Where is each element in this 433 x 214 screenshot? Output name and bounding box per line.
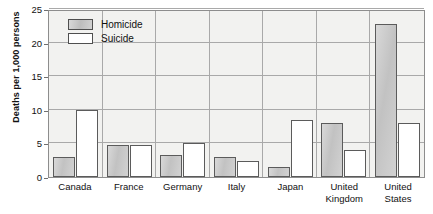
bar-homicide-canada — [53, 157, 75, 177]
y-tick-label-25: 25 — [2, 4, 42, 15]
y-tick-mark-5 — [44, 144, 48, 145]
bar-group-united-kingdom — [317, 11, 371, 177]
bar-pair — [210, 11, 264, 177]
bar-homicide-germany — [160, 155, 182, 177]
legend: Homicide Suicide — [68, 19, 143, 47]
bar-suicide-united-states — [398, 123, 420, 177]
y-tick-label-10: 10 — [2, 105, 42, 116]
y-tick-label-0: 0 — [2, 172, 42, 183]
bar-group-japan — [263, 11, 317, 177]
y-tick-mark-15 — [44, 77, 48, 78]
bar-suicide-germany — [183, 143, 205, 177]
y-tick-mark-10 — [44, 111, 48, 112]
bar-suicide-japan — [291, 120, 313, 177]
bar-group-italy — [210, 11, 264, 177]
bar-pair — [317, 11, 371, 177]
y-tick-label-20: 20 — [2, 38, 42, 49]
y-tick-mark-0 — [44, 178, 48, 179]
legend-label-suicide: Suicide — [101, 33, 134, 44]
bar-homicide-united-kingdom — [321, 123, 343, 177]
x-axis-label-italy: Italy — [210, 181, 264, 213]
bar-pair — [156, 11, 210, 177]
x-axis-label-united-states: UnitedStates — [371, 181, 425, 213]
bar-suicide-united-kingdom — [344, 150, 366, 177]
bar-chart: Deaths per 1,000 persons Homicide Suicid… — [0, 0, 433, 214]
bar-homicide-japan — [268, 167, 290, 177]
bar-homicide-italy — [214, 157, 236, 177]
bar-suicide-france — [130, 145, 152, 177]
x-axis-label-germany: Germany — [156, 181, 210, 213]
bar-homicide-united-states — [375, 24, 397, 177]
y-tick-label-15: 15 — [2, 71, 42, 82]
bar-pair — [263, 11, 317, 177]
gridline-25 — [49, 8, 424, 9]
legend-swatch-suicide — [68, 33, 93, 44]
y-tick-mark-25 — [44, 10, 48, 11]
x-axis-labels: CanadaFranceGermanyItalyJapanUnitedKingd… — [48, 181, 425, 213]
x-axis-label-france: France — [102, 181, 156, 213]
bar-suicide-canada — [76, 110, 98, 177]
bar-group-united-states — [370, 11, 424, 177]
bar-group-germany — [156, 11, 210, 177]
legend-item-suicide: Suicide — [68, 33, 143, 44]
bar-homicide-france — [107, 145, 129, 177]
y-axis-title: Deaths per 1,000 persons — [11, 0, 21, 137]
legend-swatch-homicide — [68, 19, 93, 30]
legend-label-homicide: Homicide — [101, 19, 143, 30]
legend-item-homicide: Homicide — [68, 19, 143, 30]
plot-area: Homicide Suicide — [48, 10, 425, 178]
bar-pair — [370, 11, 424, 177]
bar-suicide-italy — [237, 161, 259, 177]
y-tick-mark-20 — [44, 44, 48, 45]
x-axis-label-japan: Japan — [263, 181, 317, 213]
x-axis-label-canada: Canada — [48, 181, 102, 213]
y-tick-label-5: 5 — [2, 138, 42, 149]
x-axis-label-united-kingdom: UnitedKingdom — [317, 181, 371, 213]
